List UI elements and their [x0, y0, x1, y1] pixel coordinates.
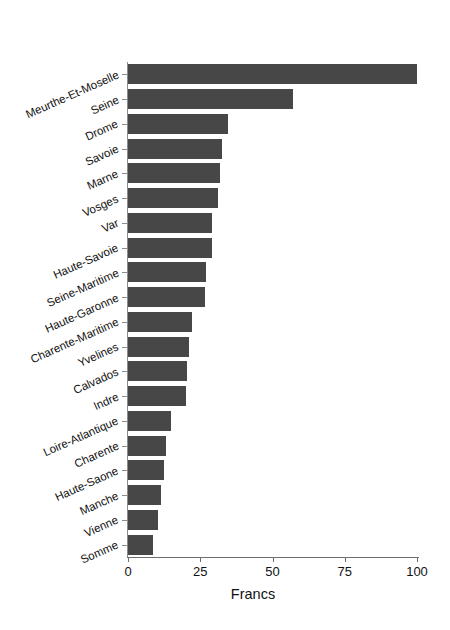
bar-fill — [128, 337, 189, 357]
bar-fill — [128, 312, 192, 332]
bar-fill — [128, 460, 164, 480]
bar — [128, 163, 220, 183]
y-axis-tick — [122, 248, 127, 249]
bar — [128, 213, 212, 233]
bar-fill — [128, 89, 293, 109]
bar — [128, 436, 166, 456]
bar-fill — [128, 411, 171, 431]
y-axis-tick — [122, 124, 127, 125]
y-axis-tick-label: Savoie — [83, 143, 120, 169]
bar-fill — [128, 163, 220, 183]
x-axis-tick — [128, 557, 129, 562]
bar — [128, 485, 161, 505]
y-axis-tick — [122, 446, 127, 447]
y-axis-tick-label: Meurthe-Et-Moselle — [24, 68, 121, 121]
y-axis-tick — [122, 99, 127, 100]
y-axis-tick — [122, 74, 127, 75]
x-axis-title: Francs — [0, 586, 450, 602]
y-axis-tick — [122, 173, 127, 174]
x-axis-tick-label: 50 — [265, 564, 279, 579]
bar — [128, 89, 293, 109]
bar-fill — [128, 238, 212, 258]
y-axis-tick — [122, 322, 127, 323]
bar — [128, 312, 192, 332]
bar-fill — [128, 287, 205, 307]
y-axis-tick-label: Var — [100, 217, 121, 236]
bar-fill — [128, 535, 153, 555]
bar — [128, 460, 164, 480]
x-axis-tick — [273, 557, 274, 562]
y-axis-tick — [122, 396, 127, 397]
bar-fill — [128, 213, 212, 233]
bar-fill — [128, 436, 166, 456]
bar — [128, 114, 228, 134]
y-axis-tick — [122, 347, 127, 348]
y-axis-tick — [122, 520, 127, 521]
x-axis-tick-label: 100 — [406, 564, 428, 579]
bar-fill — [128, 361, 187, 381]
bar — [128, 337, 189, 357]
bar — [128, 535, 153, 555]
y-axis-tick-label: Drome — [84, 118, 121, 144]
x-axis-tick — [200, 557, 201, 562]
y-axis-tick — [122, 495, 127, 496]
y-axis-tick-label: Somme — [79, 539, 120, 567]
y-axis-tick — [122, 545, 127, 546]
y-axis-tick — [122, 198, 127, 199]
y-axis-tick-label: Indre — [91, 390, 120, 413]
x-axis-tick-label: 0 — [124, 564, 131, 579]
bar-fill — [128, 485, 161, 505]
y-axis-tick-label: Marne — [86, 167, 121, 192]
bar-fill — [128, 386, 186, 406]
bar — [128, 139, 222, 159]
bar-fill — [128, 262, 206, 282]
bar-fill — [128, 114, 228, 134]
y-axis-tick-label: Vosges — [81, 192, 121, 219]
y-axis-line — [127, 62, 128, 557]
bar — [128, 287, 205, 307]
bar — [128, 510, 158, 530]
x-axis-tick-label: 25 — [193, 564, 207, 579]
x-axis-title-text: Francs — [231, 586, 275, 602]
y-axis-tick-label: Vienne — [83, 514, 121, 540]
bar — [128, 64, 417, 84]
y-axis-tick — [122, 371, 127, 372]
bar — [128, 262, 206, 282]
y-axis-tick — [122, 470, 127, 471]
x-axis-tick — [417, 557, 418, 562]
y-axis-tick — [122, 421, 127, 422]
x-axis-tick — [345, 557, 346, 562]
y-axis-tick — [122, 297, 127, 298]
bar — [128, 188, 218, 208]
bar-fill — [128, 64, 417, 84]
y-axis-tick — [122, 272, 127, 273]
y-axis-tick-label: Seine — [88, 93, 120, 117]
y-axis-tick — [122, 149, 127, 150]
x-axis-tick-label: 75 — [338, 564, 352, 579]
bar — [128, 386, 186, 406]
bar-fill — [128, 510, 158, 530]
bar — [128, 361, 187, 381]
bar-fill — [128, 139, 222, 159]
bar — [128, 411, 171, 431]
bar — [128, 238, 212, 258]
bar-fill — [128, 188, 218, 208]
y-axis-tick — [122, 223, 127, 224]
bar-chart: Meurthe-Et-MoselleSeineDromeSavoieMarneV… — [0, 0, 450, 630]
